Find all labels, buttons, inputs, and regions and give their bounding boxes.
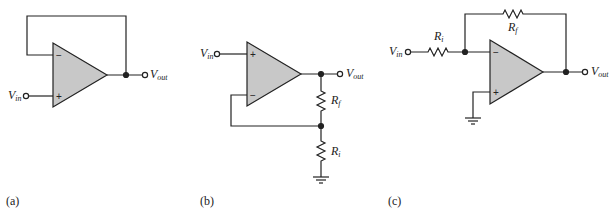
input-terminal-b: [214, 51, 219, 56]
output-node-a: [124, 73, 129, 78]
ground-wire-c: [473, 92, 490, 118]
output-terminal-b: [337, 71, 342, 76]
ri-label-c: Ri: [433, 29, 444, 44]
input-terminal-c: [405, 49, 410, 54]
circuit-c: [405, 10, 587, 124]
resistor-rf-b: [317, 74, 325, 126]
ground-icon-c: [465, 118, 481, 124]
ground-icon-b: [313, 177, 329, 183]
noninverting-sign-a: +: [56, 91, 62, 102]
noninverting-sign-c: +: [493, 87, 499, 98]
output-label-b: Vout: [346, 66, 364, 81]
input-label-b: Vin: [200, 46, 214, 61]
resistor-ri-c: [411, 48, 490, 56]
output-terminal-a: [142, 72, 147, 77]
rf-label-c: Rf: [507, 20, 519, 35]
input-label-c: Vin: [389, 44, 403, 59]
caption-c: (c): [388, 194, 401, 208]
output-terminal-c: [582, 69, 587, 74]
inverting-sign-b: −: [250, 90, 256, 101]
circuit-b: [214, 42, 342, 183]
circuit-a: [23, 16, 147, 107]
noninverting-sign-b: +: [250, 49, 256, 60]
output-node-c: [564, 70, 569, 75]
output-label-c: Vout: [591, 64, 609, 79]
input-label-a: Vin: [8, 88, 22, 103]
caption-b: (b): [200, 194, 214, 208]
inverting-sign-a: −: [56, 50, 62, 61]
input-terminal-a: [23, 93, 28, 98]
caption-a: (a): [6, 194, 19, 208]
op-amp-configurations-figure: − + Vin Vout (a) + − Vin Vout Rf Ri (b) …: [0, 0, 610, 217]
feedback-wire-b: [231, 95, 321, 126]
ri-label-b: Ri: [330, 144, 341, 159]
inverting-sign-c: −: [493, 47, 499, 58]
resistor-ri-b: [317, 126, 325, 177]
output-label-a: Vout: [150, 67, 168, 82]
rf-label-b: Rf: [330, 93, 342, 108]
